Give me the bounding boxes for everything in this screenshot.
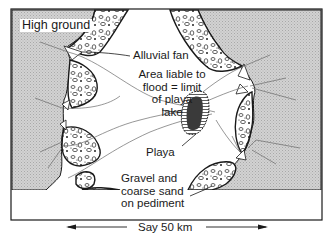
- label-flood-area: Area liable to flood = limit of playa la…: [122, 68, 222, 118]
- label-alluvial-fan: Alluvial fan: [133, 49, 189, 62]
- label-gravel-line2: coarse sand: [121, 185, 184, 198]
- label-flood-area-line1: Area liable to: [122, 68, 222, 81]
- label-playa: Playa: [146, 146, 175, 159]
- label-flood-area-line4: lake: [122, 106, 222, 119]
- label-high-ground: High ground: [20, 19, 92, 32]
- alluvial-fan-left-bottom: [76, 172, 95, 189]
- label-gravel-line1: Gravel and: [121, 172, 184, 185]
- playa-basin-diagram: [0, 0, 333, 248]
- label-flood-area-line3: of playa: [122, 93, 222, 106]
- label-flood-area-line2: flood = limit: [122, 81, 222, 94]
- label-gravel-line3: on pediment: [121, 197, 184, 210]
- label-gravel: Gravel and coarse sand on pediment: [121, 172, 184, 210]
- scale-label: Say 50 km: [138, 221, 192, 234]
